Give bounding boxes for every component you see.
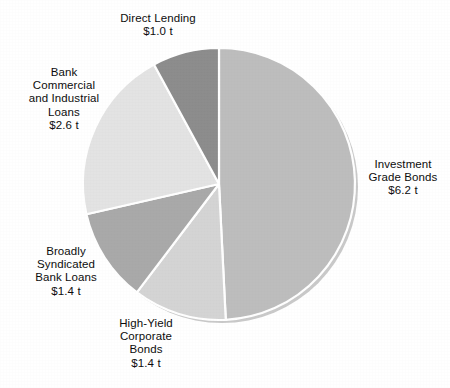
pie-chart-figure: Direct Lending $1.0 t Bank Commercial an… — [0, 0, 450, 388]
slice-label-investment-grade-bonds: Investment Grade Bonds $6.2 t — [357, 158, 449, 198]
slice-label-bank-commercial-industrial-loans: Bank Commercial and Industrial Loans $2.… — [2, 66, 126, 132]
pie-slice[interactable] — [219, 48, 355, 320]
slice-label-high-yield-corporate-bonds: High-Yield Corporate Bonds $1.4 t — [84, 317, 208, 370]
slice-label-direct-lending: Direct Lending $1.0 t — [86, 12, 230, 38]
slice-label-broadly-syndicated-bank-loans: Broadly Syndicated Bank Loans $1.4 t — [4, 245, 128, 298]
